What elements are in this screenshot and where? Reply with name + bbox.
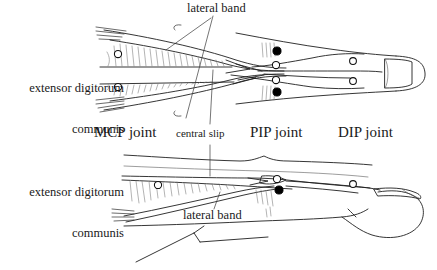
lateral-pip-hatch bbox=[256, 190, 273, 217]
diagram-page: .ln { fill:none; stroke:#1f1f1f; stroke-… bbox=[0, 0, 437, 270]
label-edc-lateral-line1: extensor digitorum bbox=[4, 186, 124, 200]
marker-lateral-pip-open bbox=[273, 175, 280, 182]
marker-lateral-mcp-open bbox=[154, 181, 161, 188]
label-mcp-joint: MCP joint bbox=[94, 124, 156, 140]
dorsal-lateral-band-lower bbox=[252, 78, 364, 89]
lateral-terminal-tendon bbox=[286, 181, 380, 190]
lateral-interosseous-hatch bbox=[130, 181, 235, 203]
lateral-volar-outline bbox=[124, 209, 368, 226]
marker-dip-lower-open bbox=[350, 78, 357, 85]
marker-pip-upper-open bbox=[272, 61, 279, 68]
label-edc-dorsal-line1: extensor digitorum bbox=[4, 82, 124, 96]
marker-dip-upper-open bbox=[350, 58, 357, 65]
label-extensor-digitorum-communis-dorsal: extensor digitorum communis bbox=[4, 55, 124, 163]
dorsal-proximal-frayed-fibers-upper bbox=[96, 27, 126, 40]
dorsal-finger-outline-upper bbox=[236, 33, 396, 56]
lateral-nail bbox=[374, 188, 421, 199]
marker-lateral-dip-open bbox=[350, 181, 357, 188]
label-edc-lateral-line2: communis bbox=[4, 227, 124, 241]
label-extensor-digitorum-communis-lateral: extensor digitorum communis bbox=[4, 159, 124, 267]
dorsal-sagittal-band-hooks bbox=[174, 25, 181, 116]
marker-pip-upper-filled bbox=[273, 47, 281, 55]
dorsal-view bbox=[96, 16, 425, 124]
dorsal-finger-outline-lower bbox=[236, 91, 396, 104]
dorsal-edc-upper-border bbox=[104, 30, 286, 68]
label-pip-joint: PIP joint bbox=[250, 124, 302, 140]
marker-lateral-pip-filled bbox=[275, 186, 283, 194]
dorsal-edc-lower-border bbox=[104, 76, 286, 110]
dorsal-lateral-band-upper bbox=[252, 54, 364, 67]
label-dip-joint: DIP joint bbox=[338, 124, 393, 140]
dorsal-nail bbox=[385, 59, 412, 88]
lateral-pulp-outline bbox=[342, 191, 423, 238]
lateral-tendon-under bbox=[286, 186, 358, 193]
label-lateral-band-lateral: lateral band bbox=[183, 209, 242, 223]
lateral-web-fork bbox=[136, 226, 268, 262]
lateral-view bbox=[112, 145, 423, 262]
lateral-subdermal-line bbox=[124, 166, 368, 177]
marker-pip-lower-open bbox=[272, 76, 279, 83]
label-central-slip: central slip bbox=[176, 128, 225, 140]
leader-central-slip bbox=[210, 70, 213, 124]
lateral-dorsal-skin-line bbox=[124, 155, 372, 165]
label-lateral-band-dorsal: lateral band bbox=[187, 2, 246, 16]
dorsal-central-slip-band bbox=[258, 71, 382, 72]
marker-pip-lower-filled bbox=[273, 88, 281, 96]
leader-lateral-band-top-branch bbox=[166, 18, 211, 50]
dorsal-interosseous-hatch-upper bbox=[107, 44, 224, 66]
